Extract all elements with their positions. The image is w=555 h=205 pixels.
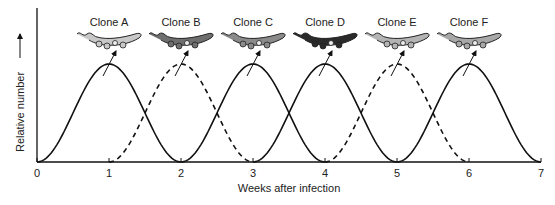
- y-axis-label: Relative number: [14, 72, 26, 152]
- trypanosome-icon: [149, 33, 213, 49]
- trypanosome-icon: [221, 33, 285, 49]
- trypanosome-icon: [293, 33, 357, 49]
- x-tick-label: 5: [394, 167, 400, 179]
- x-tick-label: 6: [466, 167, 472, 179]
- x-axis-label: Weeks after infection: [238, 182, 341, 194]
- trypanosome-icon: [77, 33, 141, 49]
- y-axis-label-group: Relative number: [14, 34, 26, 152]
- x-tick-label: 7: [538, 167, 544, 179]
- clone-label: Clone C: [233, 16, 273, 28]
- clone-label: Clone F: [450, 16, 489, 28]
- x-tick-label: 1: [106, 167, 112, 179]
- clone-curve-clone-f: [397, 64, 541, 162]
- arrow-icon: [463, 51, 476, 76]
- clone-curve-clone-c: [181, 64, 325, 162]
- x-tick-label: 3: [250, 167, 256, 179]
- clone-curve-clone-b: [109, 64, 253, 162]
- arrow-icon: [247, 51, 260, 76]
- arrow-icon: [391, 51, 404, 76]
- x-tick-label: 4: [322, 167, 328, 179]
- trypanosome-icon: [365, 33, 429, 49]
- arrow-icon: [103, 51, 116, 76]
- clone-label: Clone D: [305, 16, 345, 28]
- clone-curve-clone-d: [253, 64, 397, 162]
- clone-label: Clone E: [377, 16, 416, 28]
- clone-icons: Clone AClone BClone CClone DClone EClone…: [77, 16, 501, 76]
- clone-curve-clone-a: [37, 64, 181, 162]
- clone-label: Clone B: [161, 16, 200, 28]
- x-tick-labels: 01234567: [34, 167, 544, 179]
- x-tick-label: 2: [178, 167, 184, 179]
- arrow-icon: [175, 51, 188, 76]
- clone-curves: [37, 64, 541, 162]
- clone-label: Clone A: [90, 16, 129, 28]
- clone-curve-clone-e: [325, 64, 469, 162]
- trypanosome-icon: [437, 33, 501, 49]
- arrow-icon: [319, 51, 332, 76]
- antigenic-variation-chart: 01234567 Clone AClone BClone CClone DClo…: [0, 0, 555, 205]
- x-tick-label: 0: [34, 167, 40, 179]
